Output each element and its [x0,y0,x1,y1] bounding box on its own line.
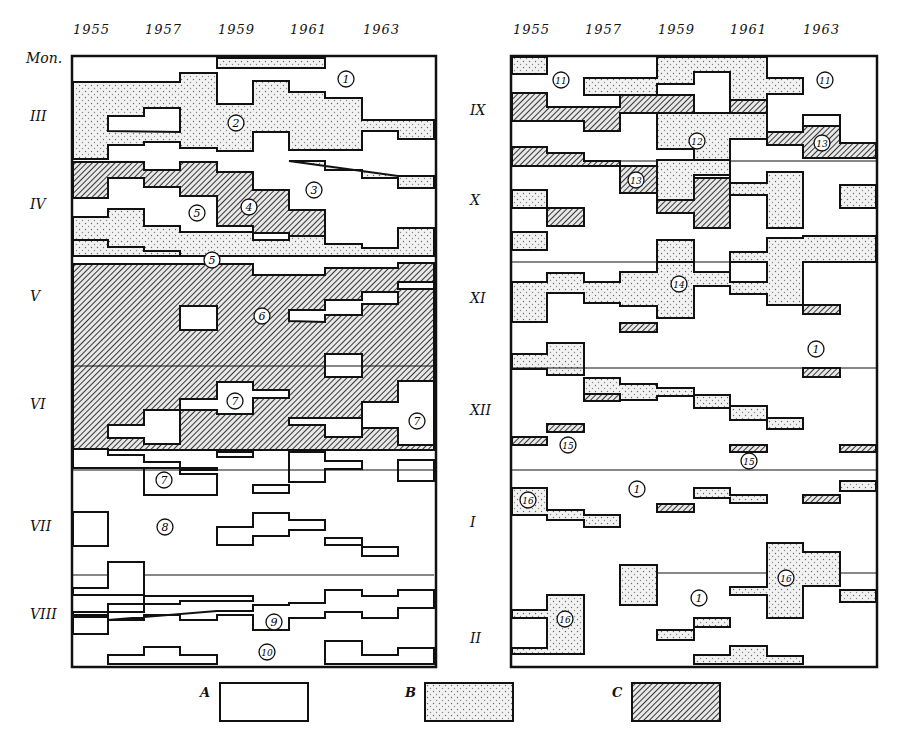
svg-text:11: 11 [819,76,830,86]
region-number: 16 [778,570,794,586]
svg-text:1: 1 [343,73,350,86]
region-number: 16 [520,492,536,508]
svg-text:9: 9 [271,616,278,629]
svg-text:12: 12 [691,137,703,147]
region-number: 13 [628,172,644,188]
region-number: 15 [560,437,576,453]
svg-text:15: 15 [743,457,755,467]
svg-text:10: 10 [261,648,273,658]
legend-swatch-a [220,683,308,721]
region-number: 10 [259,644,275,660]
legend-swatch-c [632,683,720,721]
region-number: 1 [338,71,354,87]
region-number: 14 [671,276,687,292]
svg-text:2: 2 [232,117,240,130]
svg-text:5: 5 [209,254,216,267]
svg-text:1: 1 [813,343,820,356]
svg-text:13: 13 [630,176,642,186]
legend-label-c: C [612,685,622,700]
svg-text:3: 3 [311,184,318,197]
region-number: 1 [691,590,707,606]
region-number: 13 [814,135,830,151]
region-number: 7 [409,413,425,429]
svg-text:16: 16 [780,574,792,584]
svg-text:16: 16 [559,615,571,625]
region-number: 8 [157,519,173,535]
region-number: 16 [557,611,573,627]
legend-label-a: A [200,685,210,700]
svg-text:7: 7 [414,415,421,428]
svg-text:1: 1 [696,592,703,605]
svg-text:4: 4 [245,201,253,214]
svg-text:16: 16 [522,496,534,506]
left-panel [72,56,436,667]
svg-text:1: 1 [634,483,641,496]
region-number: 12 [689,133,705,149]
legend-label-b: B [405,685,416,700]
phenology-diagram: 123455677789101111121313141151511616116 [0,0,900,745]
svg-text:7: 7 [161,474,168,487]
region-number: 1 [629,481,645,497]
region-number: 7 [156,472,172,488]
legend-swatch-b [425,683,513,721]
region-number: 2 [228,115,244,131]
region-number: 7 [227,393,243,409]
region-number: 15 [741,453,757,469]
region-number: 4 [241,199,257,215]
svg-text:7: 7 [232,395,239,408]
region-number: 3 [306,182,322,198]
svg-text:8: 8 [162,521,169,534]
figure-caption-partial [22,738,882,745]
region-number: 1 [808,341,824,357]
region-number: 11 [817,72,833,88]
svg-text:5: 5 [194,207,201,220]
svg-text:11: 11 [555,76,566,86]
region-number: 11 [553,72,569,88]
region-number: 9 [266,614,282,630]
legend [220,683,720,721]
region-number: 5 [189,205,205,221]
svg-text:6: 6 [259,310,266,323]
region-number: 5 [204,252,220,268]
svg-text:14: 14 [673,280,685,290]
svg-text:13: 13 [816,139,828,149]
region-number: 6 [254,308,270,324]
svg-text:15: 15 [562,441,574,451]
